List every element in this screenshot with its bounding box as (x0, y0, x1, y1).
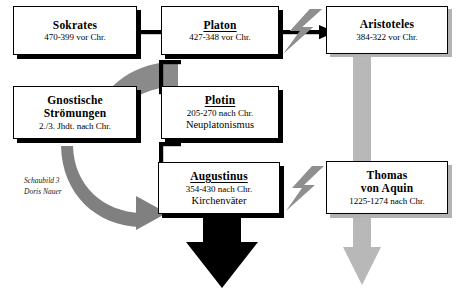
node-plotin[interactable]: Plotin 205-270 nach Chr. Neuplatonismus (161, 86, 279, 139)
node-platon-dates: 427-348 vor Chr. (189, 32, 251, 42)
nodes-layer: Sokrates 470-399 vor Chr. Platon 427-348… (0, 0, 457, 290)
node-plotin-subtitle: Neuplatonismus (186, 119, 254, 131)
node-thomas-title: Thomas (367, 169, 408, 182)
caption: Schaubild 3 Doris Nauer (24, 176, 62, 198)
node-augustinus[interactable]: Augustinus 354-430 nach Chr. Kirchenväte… (158, 162, 280, 214)
node-gnosis-title2: Strömungen (44, 107, 107, 120)
node-sokrates-title: Sokrates (53, 19, 97, 32)
node-plotin-title: Plotin (205, 94, 236, 107)
node-sokrates[interactable]: Sokrates 470-399 vor Chr. (13, 6, 137, 55)
node-gnostische-stroemungen[interactable]: Gnostische Strömungen 2./3. Jhdt. nach C… (13, 86, 137, 139)
node-augustinus-title: Augustinus (190, 170, 248, 183)
node-aristoteles-dates: 384-322 vor Chr. (356, 32, 418, 42)
node-thomas-dates: 1225-1274 nach Chr. (349, 196, 425, 206)
node-thomas-title2: von Aquin (361, 182, 414, 195)
node-aristoteles-title: Aristoteles (360, 18, 415, 31)
node-thomas-von-aquin[interactable]: Thomas von Aquin 1225-1274 nach Chr. (326, 161, 448, 214)
node-gnosis-dates: 2./3. Jhdt. nach Chr. (39, 121, 111, 131)
node-aristoteles[interactable]: Aristoteles 384-322 vor Chr. (326, 6, 448, 54)
caption-line-1: Schaubild 3 (24, 176, 62, 187)
node-gnosis-title: Gnostische (47, 94, 103, 107)
diagram-canvas: Sokrates 470-399 vor Chr. Platon 427-348… (0, 0, 457, 290)
node-plotin-dates: 205-270 nach Chr. (187, 108, 254, 118)
node-platon-title: Platon (203, 19, 236, 32)
node-sokrates-dates: 470-399 vor Chr. (44, 32, 106, 42)
node-platon[interactable]: Platon 427-348 vor Chr. (161, 6, 279, 55)
caption-line-2: Doris Nauer (24, 187, 62, 198)
node-augustinus-dates: 354-430 nach Chr. (186, 184, 253, 194)
node-augustinus-subtitle: Kirchenväter (192, 195, 247, 207)
